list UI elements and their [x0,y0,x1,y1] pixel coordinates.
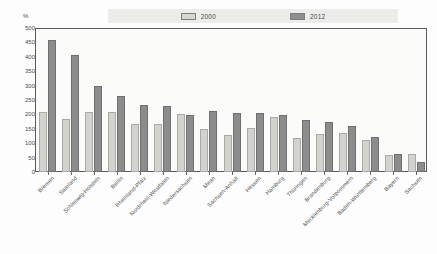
bar-2012 [394,154,402,172]
bar-group [62,28,79,172]
y-axis-tick-label: 500 [7,25,35,31]
bar-2012 [48,40,56,172]
bar-group [247,28,264,172]
bar-2000 [362,140,370,172]
bar-group [108,28,125,172]
x-axis-category-label: Saarland [57,175,78,196]
legend-entry-2000: 2000 [181,13,216,20]
bar-group [316,28,333,172]
x-axis-category-label: Mean [202,175,216,189]
y-axis-tick-label: 250 [7,97,35,103]
bar-group [224,28,241,172]
bars-layer [35,28,427,172]
bar-2012 [233,113,241,172]
y-axis-tick-label: 50 [7,155,35,161]
x-axis-category-label: Hamburg [264,175,285,196]
y-axis-tick-label: 0 [7,169,35,175]
bar-2000 [177,114,185,172]
bar-2012 [163,106,171,172]
bar-group [154,28,171,172]
x-axis-category-label: Thüringen [286,175,309,198]
bar-2012 [117,96,125,172]
x-axis-category-label: Bremen [36,175,55,194]
x-axis-category-label: Berlin [109,175,124,190]
bar-2000 [408,154,416,172]
bar-2012 [302,120,310,172]
y-axis-unit-label: % [23,13,28,19]
bar-2000 [154,124,162,172]
chart-legend: 2000 2012 [108,9,398,23]
x-axis-category-labels: BremenSaarlandSchleswig-HolsteinBerlinRh… [35,175,427,254]
bar-2000 [270,117,278,172]
bar-2012 [325,122,333,172]
bar-group [270,28,287,172]
legend-label-2000: 2000 [201,13,216,20]
bar-group [85,28,102,172]
bar-2012 [140,105,148,172]
bar-2012 [186,115,194,172]
bar-group [131,28,148,172]
bar-2000 [385,155,393,172]
bar-chart: 2000 2012 % 0501001502002503003504004505… [0,0,437,254]
y-axis-tick-labels: 050100150200250300350400450500 [0,28,35,172]
bar-2000 [200,129,208,172]
y-axis-tick-label: 150 [7,126,35,132]
bar-group [39,28,56,172]
bar-2012 [94,86,102,172]
legend-swatch-light-icon [181,13,196,20]
bar-2000 [316,134,324,172]
bar-2012 [371,137,379,172]
x-axis-category-label: Nordrhein-Westfalen [128,175,170,217]
bar-2012 [417,162,425,172]
y-axis-tick-label: 350 [7,68,35,74]
bar-2000 [247,128,255,172]
y-axis-tick-label: 200 [7,111,35,117]
x-axis-category-label: Hessen [244,175,262,193]
bar-2000 [224,135,232,172]
y-axis-tick-label: 100 [7,140,35,146]
bar-2012 [348,126,356,172]
y-axis-tick-label: 450 [7,39,35,45]
bar-group [339,28,356,172]
x-axis-category-label: Sachsen [404,175,424,195]
bar-2012 [279,115,287,172]
bar-2000 [85,112,93,172]
bar-group [385,28,402,172]
bar-group [293,28,310,172]
legend-swatch-dark-icon [290,13,305,20]
bar-2000 [131,124,139,172]
x-axis-category-label: Bayern [383,175,400,192]
bar-group [408,28,425,172]
legend-label-2012: 2012 [310,13,325,20]
bar-2000 [39,112,47,172]
bar-2000 [293,138,301,172]
y-axis-tick-label: 300 [7,83,35,89]
y-axis-tick-label: 400 [7,54,35,60]
bar-group [362,28,379,172]
bar-group [177,28,194,172]
legend-entry-2012: 2012 [290,13,325,20]
bar-2012 [209,111,217,172]
bar-2000 [339,133,347,172]
bar-2000 [62,119,70,172]
bar-2012 [256,113,264,172]
bar-group [200,28,217,172]
bar-2000 [108,112,116,172]
bar-2012 [71,55,79,172]
